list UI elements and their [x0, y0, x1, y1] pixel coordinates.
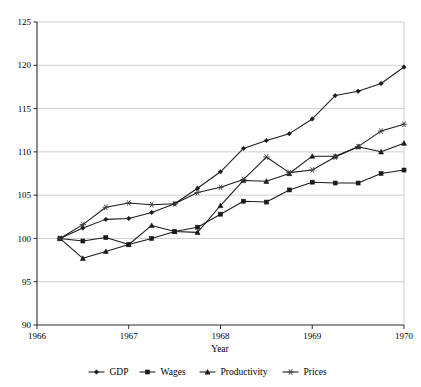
chart-legend: GDPWagesProductivityPrices — [89, 367, 328, 377]
x-axis-ticks-group: 19661967196819691970 — [28, 325, 414, 341]
legend-item-productivity[interactable]: Productivity — [200, 367, 268, 377]
data-point-wages-11 — [310, 180, 314, 184]
x-tick-label-1970: 1970 — [395, 331, 414, 341]
legend-label-gdp: GDP — [110, 367, 129, 377]
x-tick-label-1968: 1968 — [212, 331, 231, 341]
x-tick-label-1969: 1969 — [303, 331, 322, 341]
y-axis-ticks-group: 9095100105110115120125 — [18, 17, 38, 330]
data-point-wages-14 — [379, 172, 383, 176]
x-tick-label-1967: 1967 — [120, 331, 139, 341]
data-point-prices-4 — [148, 202, 154, 208]
data-point-gdp-4 — [149, 210, 153, 214]
series-line-wages — [60, 170, 404, 244]
data-point-wages-13 — [356, 181, 360, 185]
legend-item-wages[interactable]: Wages — [140, 367, 186, 377]
data-point-gdp-9 — [264, 138, 268, 142]
y-tick-label-115: 115 — [18, 104, 32, 114]
data-point-gdp-2 — [104, 217, 108, 221]
series-line-gdp — [60, 67, 404, 238]
series-line-prices — [60, 124, 404, 238]
y-tick-label-100: 100 — [18, 234, 32, 244]
line-chart: 9095100105110115120125 19661967196819691… — [0, 0, 421, 387]
data-point-wages-10 — [287, 188, 291, 192]
star-marker-icon — [287, 369, 293, 375]
data-point-wages-8 — [241, 199, 245, 203]
legend-label-prices: Prices — [304, 367, 328, 377]
y-tick-label-110: 110 — [18, 147, 32, 157]
y-tick-label-120: 120 — [18, 60, 32, 70]
x-tick-label-1966: 1966 — [28, 331, 47, 341]
data-point-wages-1 — [81, 239, 85, 243]
square-marker-icon — [146, 370, 150, 374]
data-point-wages-12 — [333, 181, 337, 185]
y-tick-label-95: 95 — [22, 277, 32, 287]
data-point-wages-7 — [219, 212, 223, 216]
data-point-wages-9 — [264, 200, 268, 204]
data-series-group — [57, 65, 407, 261]
series-gdp — [58, 65, 406, 241]
chart-canvas: 9095100105110115120125 19661967196819691… — [0, 0, 421, 387]
data-point-wages-4 — [150, 236, 154, 240]
data-point-prices-11 — [309, 167, 315, 173]
data-point-wages-2 — [104, 236, 108, 240]
legend-item-prices[interactable]: Prices — [283, 367, 328, 377]
data-point-prices-3 — [126, 200, 132, 206]
y-tick-label-125: 125 — [18, 17, 32, 27]
data-point-productivity-4 — [149, 223, 154, 228]
y-tick-label-105: 105 — [18, 190, 32, 200]
legend-item-gdp[interactable]: GDP — [89, 367, 129, 377]
legend-label-wages: Wages — [161, 367, 186, 377]
data-point-prices-7 — [217, 185, 223, 191]
data-point-gdp-13 — [356, 89, 360, 93]
series-wages — [58, 168, 406, 246]
data-point-wages-15 — [402, 168, 406, 172]
gridlines-group — [37, 22, 404, 282]
series-prices — [57, 121, 407, 241]
data-point-productivity-15 — [402, 141, 407, 146]
diamond-marker-icon — [94, 370, 98, 374]
data-point-wages-6 — [196, 225, 200, 229]
x-axis-title: Year — [211, 344, 229, 354]
y-tick-label-90: 90 — [22, 320, 32, 330]
series-productivity — [57, 141, 406, 261]
data-point-gdp-3 — [127, 216, 131, 220]
legend-label-productivity: Productivity — [221, 367, 268, 377]
